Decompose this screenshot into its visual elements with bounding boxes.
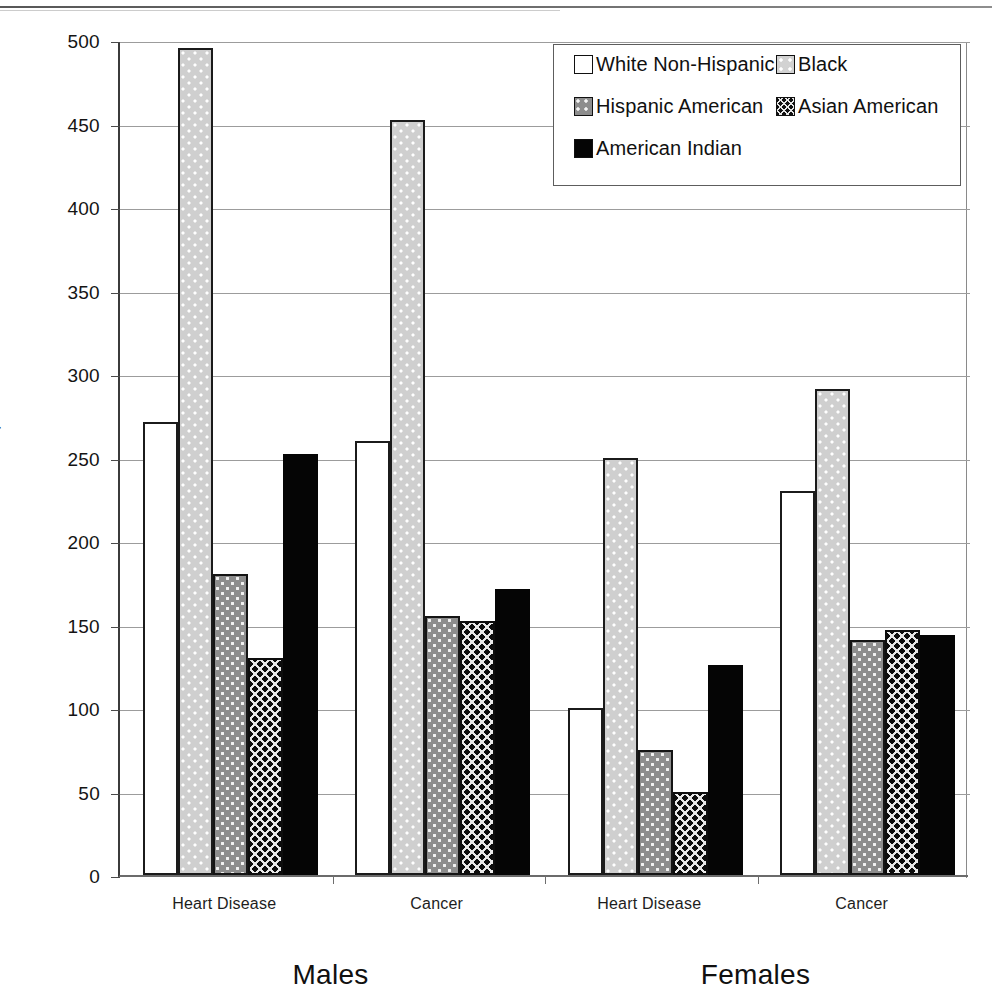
- legend-swatch-asian-american-icon: [776, 97, 795, 116]
- bar-hisp-group-4[interactable]: [850, 640, 885, 875]
- bar-black-group-1[interactable]: [178, 48, 213, 875]
- legend-item-black[interactable]: Black: [776, 53, 847, 76]
- legend-item-asian-american[interactable]: Asian American: [776, 95, 938, 118]
- bar-asian-group-4[interactable]: [885, 630, 920, 875]
- category-label-4: Cancer: [756, 895, 969, 913]
- y-axis-tick-label: 250: [44, 450, 100, 469]
- y-axis-tick: [111, 877, 120, 878]
- y-axis-tick: [111, 293, 120, 294]
- y-axis-title: Deaths Per 100,000 Persons: [0, 145, 3, 745]
- bar-chart: Deaths Per 100,000 Persons 0501001502002…: [0, 0, 992, 1003]
- bar-ai-group-4[interactable]: [920, 635, 955, 875]
- y-axis-tick-label: 200: [44, 533, 100, 552]
- legend-label: Asian American: [798, 95, 938, 118]
- bar-white-group-2[interactable]: [355, 441, 390, 875]
- legend: White Non-Hispanic Black Hispanic Americ…: [553, 44, 961, 186]
- bar-ai-group-1[interactable]: [283, 454, 318, 875]
- legend-row: American Indian: [554, 137, 960, 177]
- category-label-2: Cancer: [331, 895, 544, 913]
- category-tick: [333, 875, 334, 884]
- y-axis-tick-label: 500: [44, 32, 100, 51]
- y-axis-tick: [111, 710, 120, 711]
- y-axis-tick-label: 450: [44, 116, 100, 135]
- y-axis-tick: [111, 209, 120, 210]
- y-axis-tick: [111, 627, 120, 628]
- legend-row: Hispanic American Asian American: [554, 95, 960, 135]
- bar-asian-group-3[interactable]: [673, 792, 708, 876]
- bar-black-group-4[interactable]: [815, 389, 850, 875]
- bar-black-group-2[interactable]: [390, 120, 425, 875]
- group-label-males: Males: [118, 959, 543, 991]
- y-axis-tick-label: 50: [44, 784, 100, 803]
- legend-label: White Non-Hispanic: [596, 53, 775, 76]
- legend-swatch-white-non-hispanic-icon: [574, 55, 593, 74]
- y-axis-tick-label: 0: [44, 867, 100, 886]
- category-label-1: Heart Disease: [118, 895, 331, 913]
- y-axis-tick: [111, 543, 120, 544]
- legend-label: American Indian: [596, 137, 742, 160]
- y-axis-tick: [111, 376, 120, 377]
- y-axis-tick: [111, 794, 120, 795]
- legend-label: Hispanic American: [596, 95, 763, 118]
- bar-white-group-3[interactable]: [568, 708, 603, 875]
- gridline: [120, 209, 970, 210]
- category-tick: [758, 875, 759, 884]
- y-axis-tick: [111, 126, 120, 127]
- bar-hisp-group-2[interactable]: [425, 616, 460, 875]
- legend-row: White Non-Hispanic Black: [554, 53, 960, 93]
- group-label-females: Females: [543, 959, 968, 991]
- y-axis-tick-label: 350: [44, 283, 100, 302]
- legend-item-hispanic-american[interactable]: Hispanic American: [574, 95, 763, 118]
- bar-black-group-3[interactable]: [603, 458, 638, 876]
- bar-ai-group-3[interactable]: [708, 665, 743, 875]
- y-axis-tick: [111, 42, 120, 43]
- bar-asian-group-2[interactable]: [460, 621, 495, 875]
- y-axis-tick-label: 400: [44, 199, 100, 218]
- gridline: [120, 376, 970, 377]
- legend-item-white-non-hispanic[interactable]: White Non-Hispanic: [574, 53, 775, 76]
- y-axis-tick-label: 100: [44, 700, 100, 719]
- legend-swatch-hispanic-american-icon: [574, 97, 593, 116]
- legend-swatch-american-indian-icon: [574, 139, 593, 158]
- bar-asian-group-1[interactable]: [248, 658, 283, 875]
- gridline: [120, 42, 970, 43]
- category-tick: [545, 875, 546, 884]
- bar-hisp-group-1[interactable]: [213, 574, 248, 875]
- legend-swatch-black-icon: [776, 55, 795, 74]
- bar-white-group-1[interactable]: [143, 422, 178, 875]
- y-axis-tick-label: 300: [44, 366, 100, 385]
- category-label-3: Heart Disease: [543, 895, 756, 913]
- y-axis-tick: [111, 460, 120, 461]
- bar-hisp-group-3[interactable]: [638, 750, 673, 875]
- legend-item-american-indian[interactable]: American Indian: [574, 137, 742, 160]
- y-axis-tick-label: 150: [44, 617, 100, 636]
- legend-label: Black: [798, 53, 847, 76]
- bar-white-group-4[interactable]: [780, 491, 815, 875]
- bar-ai-group-2[interactable]: [495, 589, 530, 875]
- gridline: [120, 293, 970, 294]
